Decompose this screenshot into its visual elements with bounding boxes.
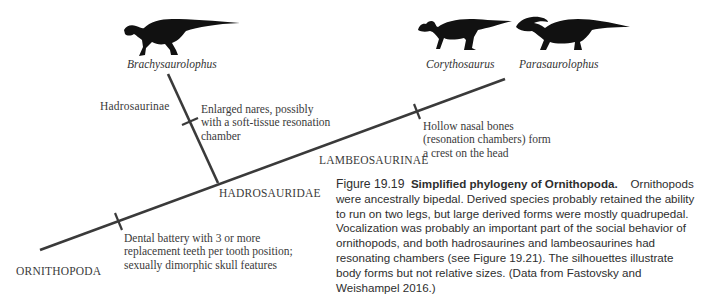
figure-caption: Figure 19.19 Simplified phylogeny of Orn… xyxy=(336,177,700,295)
trait-dental-battery: Dental battery with 3 or more replacemen… xyxy=(124,232,302,272)
clade-label-lambeosaurinae: LAMBEOSAURINAE xyxy=(319,154,429,166)
figure-caption-body: Ornithopods were ancestrally bipedal. De… xyxy=(336,177,694,294)
clade-label-ornithopoda: ORNITHOPODA xyxy=(16,265,101,277)
genus-label-brachysaurolophus: Brachysaurolophus xyxy=(127,58,217,70)
figure-number: Figure 19.19 xyxy=(336,177,404,191)
genus-label-corythosaurus: Corythosaurus xyxy=(426,58,494,70)
genus-label-parasaurolophus: Parasaurolophus xyxy=(519,58,598,70)
parasaurolophus-silhouette xyxy=(516,17,630,50)
trait-enlarged-nares: Enlarged nares, possibly with a soft-tis… xyxy=(201,103,336,143)
figure-title: Simplified phylogeny of Ornithopoda. xyxy=(411,177,618,190)
brachysaurolophus-silhouette xyxy=(124,19,240,56)
clade-label-hadrosauridae: HADROSAURIDAE xyxy=(219,187,321,199)
clade-label-hadrosaurinae: Hadrosaurinae xyxy=(100,100,170,112)
corythosaurus-silhouette xyxy=(418,19,512,50)
trait-hollow-nasal-bones: Hollow nasal bones (resonation chambers)… xyxy=(423,120,553,160)
